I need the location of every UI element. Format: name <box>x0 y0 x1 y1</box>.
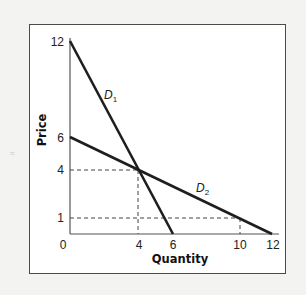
y-tick-1: 1 <box>57 211 64 225</box>
x-tick-12: 12 <box>266 238 280 252</box>
d2-label-sub: 2 <box>205 188 210 197</box>
y-tick-6: 6 <box>57 131 64 145</box>
x-tick-10: 10 <box>233 238 247 252</box>
y-tick-4: 4 <box>57 163 64 177</box>
x-tick-6: 6 <box>170 238 177 252</box>
y-tick-12: 12 <box>51 35 65 49</box>
origin-label: 0 <box>60 238 67 252</box>
d1-label-sub: 1 <box>113 95 118 104</box>
demand-chart: 12 6 4 1 0 4 6 10 12 Quantity Price D1 D… <box>0 0 306 295</box>
d1-label: D1 <box>104 88 118 104</box>
x-tick-4: 4 <box>136 238 143 252</box>
demand-curve-d1 <box>70 41 173 234</box>
y-axis-title: Price <box>35 113 49 146</box>
d1-label-main: D <box>104 88 113 102</box>
x-axis-title: Quantity <box>152 252 209 266</box>
d2-label: D2 <box>196 181 210 197</box>
d2-label-main: D <box>196 181 205 195</box>
demand-curve-d2 <box>70 137 272 234</box>
